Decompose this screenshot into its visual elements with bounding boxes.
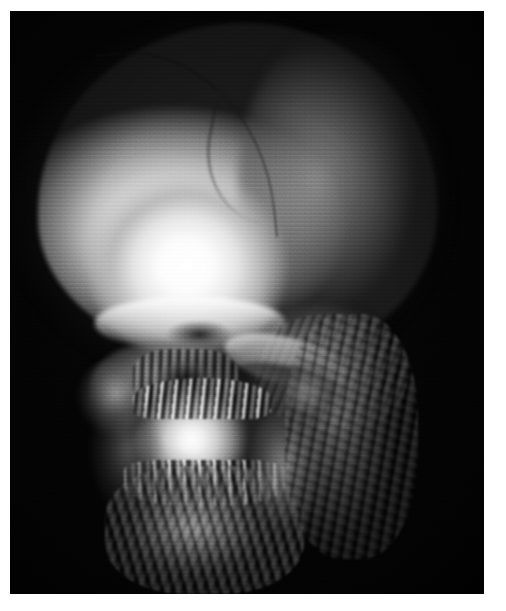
volume-rendered-ct-image bbox=[10, 11, 484, 594]
page-root bbox=[0, 0, 506, 611]
ct-slice-banding-artifact bbox=[10, 11, 484, 594]
